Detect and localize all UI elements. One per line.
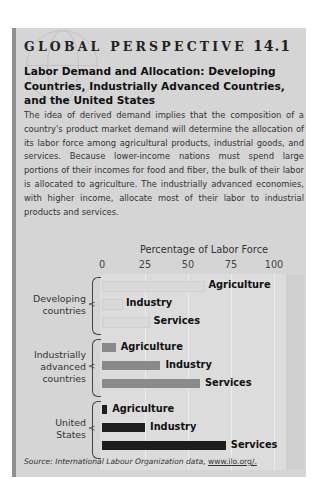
group-label-line: countries [16, 373, 86, 385]
x-tick-label: 75 [225, 259, 237, 270]
source-text: Source: International Labour Organizatio… [24, 457, 208, 466]
x-tick-label: 50 [182, 259, 194, 270]
bar-label: Agriculture [112, 403, 174, 414]
bar-services [102, 317, 150, 328]
kicker-label: GLOBAL PERSPECTIVE [24, 39, 247, 54]
body-paragraph: The idea of derived demand implies that … [24, 109, 304, 219]
x-tick-label: 0 [99, 259, 105, 270]
group-label: Developingcountries [16, 293, 86, 317]
bar-label: Industry [126, 297, 172, 308]
left-accent-stripe [12, 28, 16, 477]
group-label-line: Industrially [16, 349, 86, 361]
group-label-line: countries [16, 305, 86, 317]
kicker-number: 14.1 [253, 38, 291, 54]
x-tick-label: 100 [265, 259, 284, 270]
section-kicker: GLOBAL PERSPECTIVE14.1 [24, 38, 291, 54]
source-note: Source: International Labour Organizatio… [24, 457, 257, 466]
bar-industry [102, 299, 123, 310]
source-link[interactable]: www.ilo.org/. [208, 457, 257, 466]
group-label-line: advanced [16, 361, 86, 373]
bar-services [102, 441, 226, 450]
bar-industry [102, 361, 160, 370]
bar-agriculture [102, 281, 205, 292]
bar-label: Services [231, 439, 278, 450]
brace-tip: < [88, 299, 96, 309]
plot-margin [286, 274, 304, 470]
brace-tip: < [88, 423, 96, 433]
bar-label: Agriculture [208, 279, 270, 290]
brace-tip: < [88, 361, 96, 371]
group-label-line: States [16, 429, 86, 441]
group-label-line: United [16, 417, 86, 429]
group-label: Industriallyadvancedcountries [16, 349, 86, 385]
bar-label: Industry [150, 421, 196, 432]
bar-label: Services [205, 377, 252, 388]
global-perspective-panel: GLOBAL PERSPECTIVE14.1 Labor Demand and … [12, 28, 306, 477]
group-label: UnitedStates [16, 417, 86, 441]
bar-label: Services [153, 315, 200, 326]
group-label-line: Developing [16, 293, 86, 305]
bar-services [102, 379, 200, 388]
chart-title: Percentage of Labor Force [104, 244, 304, 255]
bar-industry [102, 423, 145, 432]
bar-label: Industry [165, 359, 211, 370]
page-title: Labor Demand and Allocation: Developing … [24, 64, 304, 108]
bar-label: Agriculture [121, 341, 183, 352]
bar-agriculture [102, 343, 116, 352]
x-tick-label: 25 [139, 259, 151, 270]
bar-agriculture [102, 405, 107, 414]
